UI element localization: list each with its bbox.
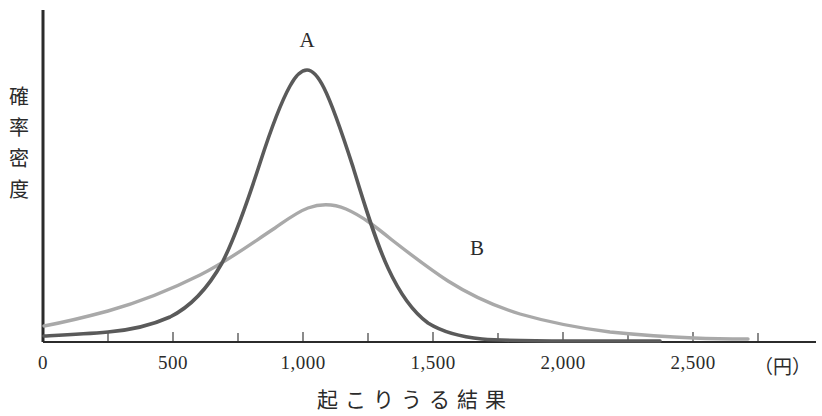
density-curve-b: [44, 205, 748, 339]
x-axis-title: 起こりうる結果: [0, 383, 822, 413]
y-axis-title: 確率密度: [4, 82, 34, 206]
x-tick-label-2000: 2,000: [540, 352, 585, 374]
x-axis-unit-label: （円）: [754, 352, 811, 379]
curve-label-b: B: [470, 236, 484, 261]
x-tick-label-2500: 2,500: [670, 352, 715, 374]
probability-density-chart: 確率密度 A B 0 500 1,000 1,500 2,000 2,500 （…: [0, 0, 822, 416]
x-tick-label-500: 500: [158, 352, 188, 374]
x-tick-label-1000: 1,000: [280, 352, 325, 374]
x-tick-label-0: 0: [38, 352, 48, 374]
x-tick-label-1500: 1,500: [410, 352, 455, 374]
curve-label-a: A: [299, 28, 314, 53]
